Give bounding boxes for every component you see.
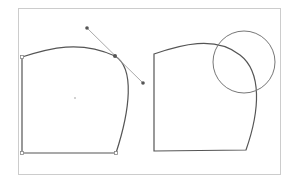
handle-out-point[interactable] xyxy=(141,81,145,85)
selected-anchor-point[interactable] xyxy=(113,54,117,58)
corner-point[interactable] xyxy=(115,152,118,155)
handle-in-point[interactable] xyxy=(85,26,89,30)
diagram-canvas xyxy=(0,0,297,187)
shape-center-point xyxy=(74,97,76,99)
corner-point[interactable] xyxy=(21,152,24,155)
corner-point[interactable] xyxy=(21,56,24,59)
